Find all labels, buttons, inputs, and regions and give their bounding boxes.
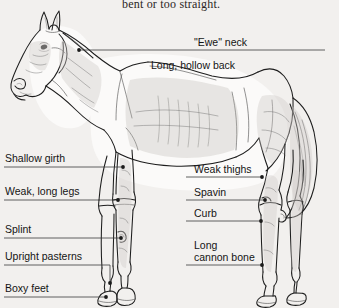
label-hollow-back: Long, hollow back: [151, 60, 235, 72]
label-ewe-neck: "Ewe" neck: [194, 37, 247, 49]
label-curb: Curb: [194, 208, 217, 220]
leader-upright-pasterns: [4, 265, 110, 283]
label-splint: Splint: [5, 224, 31, 236]
horse-front-legs: [98, 150, 136, 306]
label-weak-thighs: Weak thighs: [194, 164, 252, 176]
label-long-cannon-bone-line1: Long: [194, 240, 217, 252]
label-boxy-feet: Boxy feet: [5, 283, 49, 295]
label-spavin: Spavin: [194, 187, 226, 199]
label-weak-long-legs: Weak, long legs: [5, 186, 80, 198]
label-upright-pasterns: Upright pasterns: [5, 251, 82, 263]
label-shallow-girth: Shallow girth: [5, 153, 65, 165]
diagram-stage: bent or too straight. .o{fill:none;strok…: [0, 0, 339, 308]
label-long-cannon-bone-line2: cannon bone: [194, 252, 255, 264]
